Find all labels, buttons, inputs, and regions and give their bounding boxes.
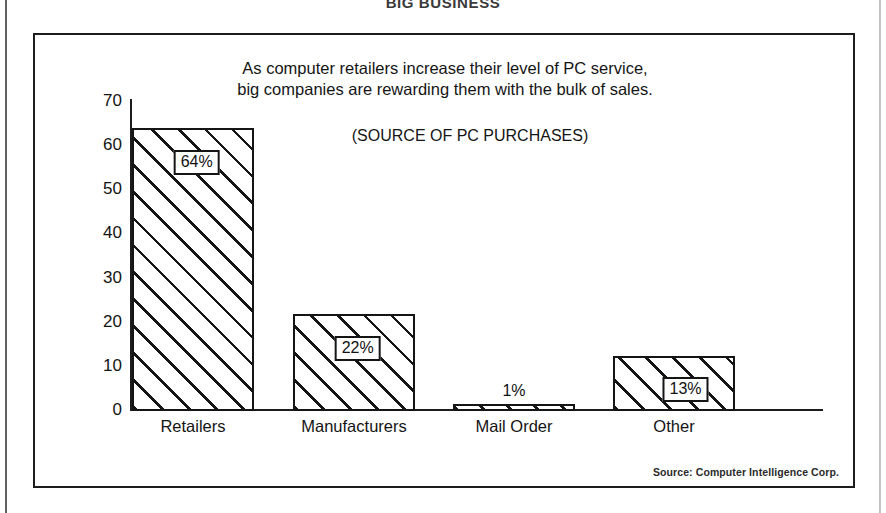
x-tick-label-mail-order: Mail Order (453, 417, 575, 436)
x-tick-label-manufacturers: Manufacturers (283, 417, 425, 436)
bar-label-manufacturers: 22% (335, 336, 381, 361)
source-attribution: Source: Computer Intelligence Corp. (653, 466, 839, 478)
plot-area: 70 60 50 40 30 20 10 0 64% 22% 1% (35, 35, 853, 486)
chart-frame: As computer retailers increase their lev… (33, 33, 855, 488)
bar-label-other: 13% (662, 377, 708, 402)
bar-label-mail-order: 1% (502, 382, 525, 400)
page-edge-right (879, 0, 881, 513)
bar-group-mail-order[interactable]: 1% (453, 35, 575, 411)
x-tick-label-other: Other (613, 417, 735, 436)
page-edge-left (5, 0, 7, 513)
page-title: BIG BUSINESS (0, 0, 886, 8)
bar-group-manufacturers[interactable]: 22% (293, 35, 415, 411)
bars-layer: 64% 22% 1% 13% (35, 35, 853, 411)
bar-label-retailers: 64% (174, 150, 220, 175)
x-tick-label-retailers: Retailers (132, 417, 254, 436)
bar-group-retailers[interactable]: 64% (132, 35, 254, 411)
bar-manufacturers[interactable] (293, 314, 415, 411)
bar-group-other[interactable]: 13% (613, 35, 735, 411)
bar-mail-order[interactable] (453, 404, 575, 411)
